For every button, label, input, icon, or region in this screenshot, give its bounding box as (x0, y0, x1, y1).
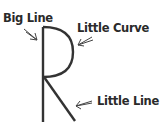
little-curve-stroke (43, 27, 73, 77)
letter-r-diagram: Big Line Little Curve Little Line (0, 0, 161, 127)
little-line-arrow-icon (76, 101, 92, 109)
big-line-label: Big Line (3, 11, 53, 25)
big-line-arrow-icon (24, 29, 37, 40)
little-curve-arrow-icon (78, 37, 93, 46)
little-line-label: Little Line (97, 94, 159, 108)
little-line-stroke (44, 77, 75, 121)
little-curve-label: Little Curve (77, 21, 150, 35)
